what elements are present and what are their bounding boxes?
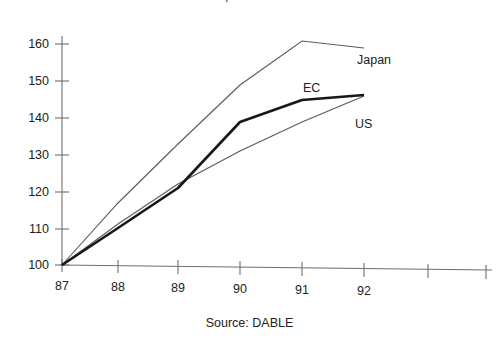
source-caption: Source: DABLE: [0, 316, 499, 330]
y-tick-label: 120: [15, 186, 49, 198]
series-label-ec: EC: [303, 81, 320, 95]
series-line-ec: [62, 95, 364, 265]
x-axis: [60, 265, 492, 270]
y-tick-label: 140: [15, 112, 49, 124]
x-tick-label: 89: [165, 282, 191, 294]
series-label-us: US: [355, 117, 372, 131]
x-tick-label: 92: [351, 285, 377, 297]
y-tick-label: 150: [15, 75, 49, 87]
y-tick-label: 160: [15, 38, 49, 50]
x-tick-label: 88: [105, 281, 131, 293]
chart-figure: expenditures: [0, 0, 499, 345]
x-tick-label: 91: [289, 284, 315, 296]
y-tick-label: 110: [15, 223, 49, 235]
x-tick-label: 87: [49, 280, 75, 292]
series-label-japan: Japan: [357, 53, 391, 67]
y-tick-label: 130: [15, 149, 49, 161]
x-tick-label: 90: [227, 283, 253, 295]
series-line-us: [62, 96, 364, 265]
y-tick-label: 100: [15, 259, 49, 271]
